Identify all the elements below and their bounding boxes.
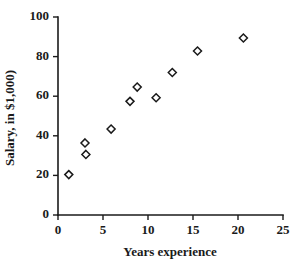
x-axis-tick-label: 5 (100, 222, 107, 237)
data-point (82, 150, 90, 158)
y-axis-title: Salary, in $1,000) (2, 70, 17, 166)
data-point (107, 125, 115, 133)
y-axis-tick-label: 40 (36, 127, 49, 142)
y-axis-tick-label: 60 (36, 87, 49, 102)
x-axis-tick-label: 10 (142, 222, 155, 237)
y-axis-tick-label: 100 (30, 8, 50, 23)
y-axis-tick-label: 20 (36, 166, 49, 181)
y-axis: 020406080100 (30, 8, 59, 221)
x-axis-tick-label: 20 (232, 222, 245, 237)
data-point (239, 34, 247, 42)
data-point (152, 94, 160, 102)
x-axis-tick-label: 15 (187, 222, 201, 237)
data-point (81, 139, 89, 147)
y-axis-tick-label: 0 (43, 206, 50, 221)
x-axis-tick-label: 25 (277, 222, 291, 237)
x-axis-title: Years experience (123, 244, 217, 259)
x-axis: 0510152025 (55, 215, 290, 237)
data-point (194, 47, 202, 55)
y-axis-tick-label: 80 (36, 48, 49, 63)
data-point-series (65, 34, 248, 179)
data-point (65, 171, 73, 179)
data-point (133, 83, 141, 91)
x-axis-tick-label: 0 (55, 222, 62, 237)
data-point (126, 97, 134, 105)
scatter-plot-canvas: 020406080100 0510152025 Years experience… (0, 0, 300, 270)
data-point (168, 68, 176, 76)
scatter-plot-figure: 020406080100 0510152025 Years experience… (0, 0, 300, 270)
